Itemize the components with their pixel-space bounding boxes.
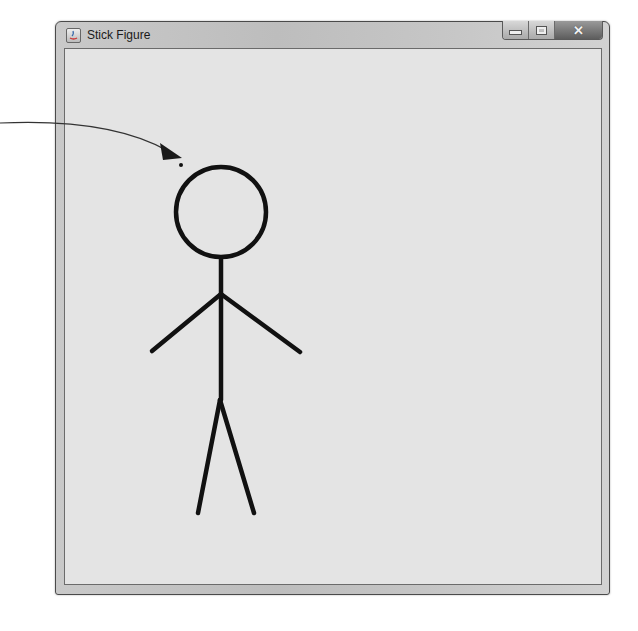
maximize-button[interactable]	[529, 21, 555, 39]
window-title: Stick Figure	[87, 28, 150, 42]
close-icon: ✕	[573, 23, 584, 38]
caption-buttons: ✕	[502, 21, 603, 40]
java-app-icon[interactable]	[66, 28, 81, 43]
title-bar[interactable]: Stick Figure ✕	[56, 22, 609, 49]
maximize-icon	[536, 26, 547, 35]
minimize-icon	[509, 30, 522, 35]
app-window: Stick Figure ✕	[55, 21, 610, 595]
close-button[interactable]: ✕	[555, 21, 602, 39]
drawing-canvas	[64, 48, 602, 585]
minimize-button[interactable]	[503, 21, 529, 39]
